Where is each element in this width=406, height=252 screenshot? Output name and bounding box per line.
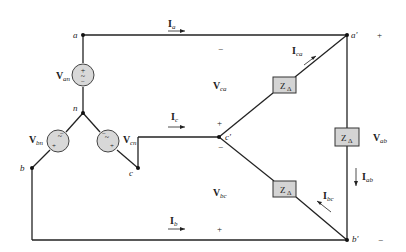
line-voltages: V ca V ab V bc <box>213 80 388 200</box>
node-a-prime-dot <box>345 33 349 37</box>
svg-text:−: − <box>60 130 64 138</box>
svg-text:bn: bn <box>36 139 44 147</box>
svg-text:−: − <box>218 142 223 152</box>
svg-text:Δ: Δ <box>287 85 292 93</box>
source-vbn: ~ − + <box>47 130 69 152</box>
node-b-dot <box>30 166 34 170</box>
source-vcn: ~ − + <box>97 130 119 152</box>
node-n-dot <box>81 111 85 115</box>
svg-text:Z: Z <box>280 81 286 91</box>
node-c-prime-dot <box>217 135 221 139</box>
label-n: n <box>73 103 78 113</box>
impedance-zab: Z Δ <box>335 128 359 146</box>
node-a-dot <box>81 33 85 37</box>
svg-text:+: + <box>377 30 382 40</box>
svg-text:+: + <box>52 142 56 150</box>
svg-text:ab: ab <box>366 176 374 184</box>
svg-text:−: − <box>218 44 223 54</box>
svg-text:+: + <box>110 142 114 150</box>
svg-text:a: a <box>172 23 176 31</box>
svg-text:Z: Z <box>341 133 347 143</box>
svg-text:an: an <box>63 75 71 83</box>
svg-text:bc: bc <box>220 192 228 200</box>
svg-text:−: − <box>102 130 106 138</box>
svg-text:Δ: Δ <box>287 189 292 197</box>
svg-text:−: − <box>378 235 383 245</box>
svg-text:c: c <box>175 116 179 124</box>
svg-text:+: + <box>217 224 222 234</box>
svg-text:ab: ab <box>380 137 388 145</box>
label-a: a <box>73 30 78 40</box>
node-b-prime-dot <box>345 238 349 242</box>
svg-text:−: − <box>81 78 85 86</box>
node-c-dot <box>136 166 140 170</box>
line-currents: I a I c I b <box>168 18 185 231</box>
svg-text:b: b <box>174 220 178 228</box>
label-c: c <box>129 168 133 178</box>
source-van: + ~ − <box>72 64 94 86</box>
svg-text:ca: ca <box>296 50 303 58</box>
label-a-prime: a′ <box>351 30 359 40</box>
svg-text:ca: ca <box>220 85 227 93</box>
impedance-zca: Z Δ <box>273 77 296 93</box>
svg-text:+: + <box>217 118 222 128</box>
svg-text:cn: cn <box>130 139 137 147</box>
impedance-zbc: Z Δ <box>273 181 296 197</box>
svg-text:Δ: Δ <box>348 137 353 145</box>
label-c-prime: c′ <box>225 132 232 142</box>
label-b-prime: b′ <box>352 234 360 244</box>
svg-text:bc: bc <box>327 195 335 203</box>
svg-text:Z: Z <box>280 185 286 195</box>
circuit-diagram: + ~ − ~ − + ~ − + Z Δ Z Δ Z Δ a n b c a′… <box>0 0 406 252</box>
label-b: b <box>20 163 25 173</box>
